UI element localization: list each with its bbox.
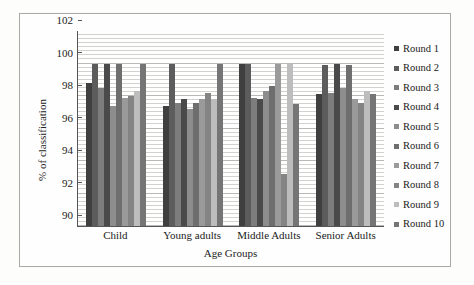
y-axis-tick-mark — [78, 215, 82, 216]
y-axis-tick-mark — [78, 150, 82, 151]
x-axis-title: Age Groups — [77, 247, 384, 259]
legend-item-label: Round 9 — [403, 200, 439, 211]
x-axis-tick-label: Middle Adults — [231, 229, 308, 241]
bar-group — [155, 31, 232, 226]
bar-group — [231, 31, 308, 226]
y-axis-tick: 98 — [62, 80, 78, 91]
y-axis-tick-mark — [78, 117, 82, 118]
bar — [370, 94, 376, 226]
legend-item: Round 5 — [394, 117, 472, 137]
legend-item-label: Round 7 — [403, 161, 439, 172]
legend-item: Round 9 — [394, 195, 472, 215]
legend-item-label: Round 6 — [403, 141, 439, 152]
bar — [293, 104, 299, 226]
chart-page: % of classification 1021009896949290 Chi… — [0, 0, 474, 285]
y-axis-tick: 92 — [62, 177, 78, 188]
legend-swatch-icon — [394, 202, 399, 207]
legend-swatch-icon — [394, 124, 399, 129]
bar — [140, 64, 146, 227]
legend-swatch-icon — [394, 46, 399, 51]
y-axis-tick-mark — [78, 52, 82, 53]
legend-swatch-icon — [394, 144, 399, 149]
y-axis-tick: 94 — [62, 145, 78, 156]
y-axis-tick-mark — [78, 182, 82, 183]
legend-item: Round 4 — [394, 98, 472, 118]
legend-item-label: Round 10 — [403, 219, 444, 230]
x-axis-tick-labels: ChildYoung adultsMiddle AdultsSenior Adu… — [77, 229, 384, 241]
chart-legend: Round 1Round 2Round 3Round 4Round 5Round… — [394, 39, 472, 234]
bar — [217, 64, 223, 227]
bar-group — [78, 31, 155, 226]
x-axis-tick-label: Child — [77, 229, 154, 241]
legend-swatch-icon — [394, 85, 399, 90]
plot-area: 1021009896949290 — [77, 31, 384, 227]
legend-item-label: Round 3 — [403, 83, 439, 94]
legend-item-label: Round 8 — [403, 180, 439, 191]
legend-item: Round 1 — [394, 39, 472, 59]
legend-swatch-icon — [394, 66, 399, 71]
y-axis-tick: 102 — [57, 15, 79, 26]
y-axis-tick-mark — [78, 20, 82, 21]
y-axis-tick: 100 — [57, 47, 79, 58]
y-axis-tick-mark — [78, 85, 82, 86]
legend-item: Round 7 — [394, 156, 472, 176]
y-axis-title: % of classification — [36, 99, 48, 181]
legend-item-label: Round 5 — [403, 122, 439, 133]
chart-frame: % of classification 1021009896949290 Chi… — [19, 13, 451, 267]
legend-swatch-icon — [394, 105, 399, 110]
y-axis-tick: 96 — [62, 112, 78, 123]
legend-item: Round 8 — [394, 176, 472, 196]
legend-swatch-icon — [394, 183, 399, 188]
legend-item: Round 10 — [394, 215, 472, 235]
legend-item-label: Round 1 — [403, 44, 439, 55]
y-axis-tick: 90 — [62, 210, 78, 221]
legend-item-label: Round 4 — [403, 102, 439, 113]
bar-groups — [78, 31, 384, 226]
legend-item: Round 2 — [394, 59, 472, 79]
legend-swatch-icon — [394, 222, 399, 227]
legend-item: Round 3 — [394, 78, 472, 98]
legend-swatch-icon — [394, 163, 399, 168]
x-axis-tick-label: Young adults — [154, 229, 231, 241]
x-axis-tick-label: Senior Adults — [307, 229, 384, 241]
legend-item-label: Round 2 — [403, 63, 439, 74]
bar-group — [308, 31, 385, 226]
legend-item: Round 6 — [394, 137, 472, 157]
